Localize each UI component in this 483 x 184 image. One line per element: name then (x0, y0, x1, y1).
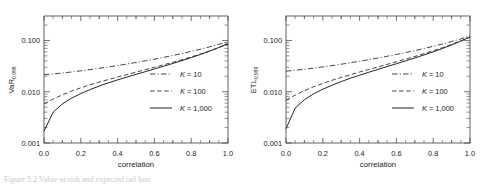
figure-container: 0.00.20.40.60.81.0 0.1000.0100.001 K = 1… (0, 0, 483, 184)
etl-y-axis-title: ETL0.999 (249, 66, 259, 93)
var-y-ticks (44, 25, 228, 143)
y-tick-label: 0.100 (264, 36, 283, 45)
var-y-axis-title: VaR0.999 (7, 66, 17, 93)
x-tick-label: 0.8 (428, 149, 438, 158)
x-tick-label: 0.8 (186, 149, 196, 158)
x-tick-label: 0.6 (149, 149, 159, 158)
x-tick-label: 0.0 (39, 149, 49, 158)
x-tick-label: 0.4 (112, 149, 122, 158)
etl-x-axis-title: correlation (360, 160, 396, 169)
etl-y-ticks (286, 25, 470, 143)
y-tick-label: 0.100 (22, 36, 41, 45)
var-x-ticks (44, 16, 228, 143)
legend-label: K = 1,000 (180, 104, 212, 113)
legend-label: K = 10 (180, 70, 202, 79)
y-tick-label: 0.001 (264, 139, 283, 148)
x-tick-label: 0.2 (76, 149, 86, 158)
var-y-tick-labels: 0.1000.0100.001 (22, 36, 41, 148)
etl-chart-svg: 0.00.20.40.60.81.0 0.1000.0100.001 K = 1… (242, 0, 483, 184)
etl-curves (286, 36, 470, 129)
etl-y-tick-labels: 0.1000.0100.001 (264, 36, 283, 148)
y-tick-label: 0.010 (22, 88, 41, 97)
var-y-axis-title-group: VaR0.999 (7, 66, 17, 93)
legend-label: K = 10 (422, 70, 444, 79)
etl-x-tick-labels: 0.00.20.40.60.81.0 (281, 149, 475, 158)
figure-caption: Figure 5.2 Value-at-risk and expected ta… (4, 175, 474, 184)
etl-legend: K = 10K = 100K = 1,000 (392, 70, 454, 113)
y-tick-label: 0.001 (22, 139, 41, 148)
x-tick-label: 0.0 (281, 149, 291, 158)
x-tick-label: 1.0 (465, 149, 475, 158)
var-chart-svg: 0.00.20.40.60.81.0 0.1000.0100.001 K = 1… (0, 0, 241, 184)
var-x-tick-labels: 0.00.20.40.60.81.0 (39, 149, 233, 158)
data-series-line (286, 37, 470, 129)
chart-panel-var: 0.00.20.40.60.81.0 0.1000.0100.001 K = 1… (0, 0, 241, 184)
x-tick-label: 0.2 (318, 149, 328, 158)
etl-x-ticks (286, 16, 470, 143)
etl-plot-frame (286, 16, 470, 143)
x-tick-label: 0.4 (354, 149, 364, 158)
chart-panel-etl: 0.00.20.40.60.81.0 0.1000.0100.001 K = 1… (242, 0, 483, 184)
y-tick-label: 0.010 (264, 88, 283, 97)
var-legend: K = 10K = 100K = 1,000 (150, 70, 212, 113)
legend-label: K = 100 (422, 87, 448, 96)
var-x-axis-title: correlation (118, 160, 154, 169)
x-tick-label: 0.6 (391, 149, 401, 158)
legend-label: K = 100 (180, 87, 206, 96)
var-plot-frame (44, 16, 228, 143)
data-series-line (286, 36, 470, 71)
legend-label: K = 1,000 (422, 104, 454, 113)
x-tick-label: 1.0 (223, 149, 233, 158)
etl-y-axis-title-group: ETL0.999 (249, 66, 259, 93)
